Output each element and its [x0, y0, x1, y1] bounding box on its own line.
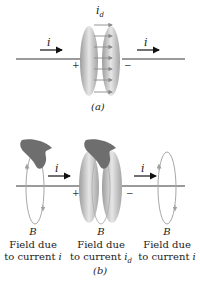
current-label-b-right: i [141, 163, 145, 174]
caption-left: B Field due to current i [0, 226, 66, 264]
current-label-b-left: i [55, 163, 59, 174]
hand-icon-left [20, 139, 52, 169]
displacement-current-label: id [96, 5, 104, 19]
field-label-middle: B [68, 226, 134, 239]
panel-b-label: (b) [93, 266, 107, 276]
minus-sign: − [124, 61, 132, 70]
panel-a-label: (a) [91, 102, 105, 112]
field-label-right: B [134, 226, 200, 239]
caption-right: B Field due to current i [134, 226, 200, 264]
capacitor-plate-right [102, 26, 120, 96]
minus-sign-b: − [126, 189, 134, 198]
plus-sign: + [72, 61, 80, 70]
caption-middle: B Field due to current id [68, 226, 134, 266]
plus-sign-b: + [72, 189, 80, 198]
capacitor-b-plate-left [79, 151, 99, 223]
current-label-left: i [47, 37, 51, 48]
field-loop-right [158, 152, 176, 224]
current-label-right: i [144, 37, 148, 48]
capacitor-plate-left [80, 26, 98, 96]
field-label-left: B [0, 226, 66, 239]
